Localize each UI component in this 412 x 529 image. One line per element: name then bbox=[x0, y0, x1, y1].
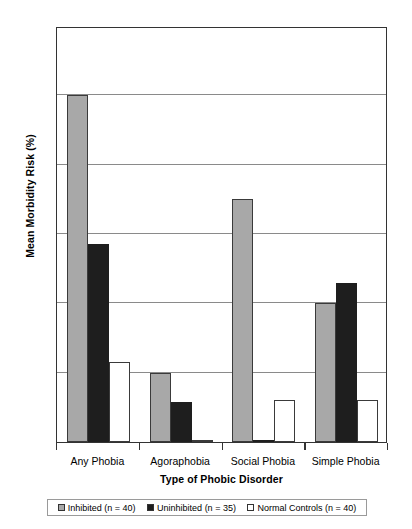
bar bbox=[150, 373, 171, 442]
legend-label: Normal Controls (n = 40) bbox=[257, 503, 356, 513]
bar bbox=[274, 400, 295, 442]
x-tick-label: Social Phobia bbox=[231, 455, 295, 467]
bar-group bbox=[223, 28, 306, 442]
legend-swatch-icon bbox=[58, 504, 65, 511]
x-axis-title: Type of Phobic Disorder bbox=[56, 473, 387, 485]
bar bbox=[192, 440, 213, 442]
legend-entry: Inhibited (n = 40) bbox=[58, 503, 136, 513]
bar bbox=[315, 303, 336, 442]
x-tick-mark bbox=[222, 443, 223, 450]
x-tick-mark bbox=[56, 443, 57, 450]
bar bbox=[171, 402, 192, 442]
bar bbox=[232, 199, 253, 442]
legend-label: Uninhibited (n = 35) bbox=[157, 503, 236, 513]
bar bbox=[109, 362, 130, 442]
x-tick-label: Simple Phobia bbox=[312, 455, 380, 467]
x-axis: Any PhobiaAgoraphobiaSocial PhobiaSimple… bbox=[56, 443, 387, 444]
legend-swatch-icon bbox=[247, 504, 254, 511]
y-axis-title: Mean Morbidity Risk (%) bbox=[24, 96, 36, 296]
bar bbox=[253, 440, 274, 442]
bar-group bbox=[305, 28, 388, 442]
legend-entry: Uninhibited (n = 35) bbox=[147, 503, 236, 513]
bar bbox=[88, 244, 109, 442]
x-tick-label: Agoraphobia bbox=[150, 455, 210, 467]
bar bbox=[67, 95, 88, 442]
bar bbox=[357, 400, 378, 442]
legend-entry: Normal Controls (n = 40) bbox=[247, 503, 356, 513]
bar-group bbox=[57, 28, 140, 442]
legend-swatch-icon bbox=[147, 504, 154, 511]
x-tick-label: Any Phobia bbox=[71, 455, 125, 467]
bar-group bbox=[140, 28, 223, 442]
x-tick-mark bbox=[139, 443, 140, 450]
x-tick-mark bbox=[304, 443, 305, 450]
chart-legend: Inhibited (n = 40)Uninhibited (n = 35)No… bbox=[47, 499, 367, 516]
bar bbox=[336, 283, 357, 442]
legend-label: Inhibited (n = 40) bbox=[68, 503, 136, 513]
bar-chart-figure: Mean Morbidity Risk (%) 051015202530 Any… bbox=[0, 0, 412, 529]
x-tick-mark bbox=[387, 443, 388, 450]
plot-area bbox=[56, 27, 387, 443]
